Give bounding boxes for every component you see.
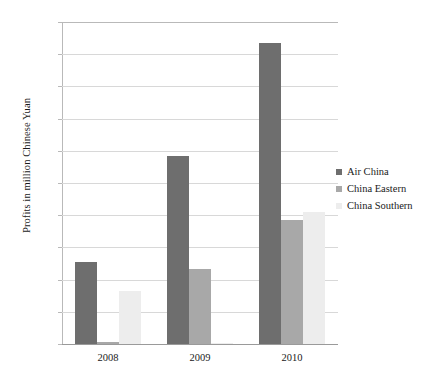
bar (281, 220, 303, 344)
bar (75, 262, 97, 344)
bar-chart: Profits in million Chinese Yuan 05001,00… (0, 0, 445, 381)
bar (97, 342, 119, 344)
gridline (62, 344, 338, 345)
legend-item[interactable]: China Eastern (336, 180, 444, 197)
bar (303, 212, 325, 344)
gridline (62, 54, 338, 55)
gridline (62, 215, 338, 216)
legend: Air ChinaChina EasternChina Southern (336, 163, 444, 214)
legend-item[interactable]: China Southern (336, 197, 444, 214)
bar (259, 43, 281, 344)
x-axis-tick-label: 2010 (252, 352, 332, 363)
y-axis-title: Profits in million Chinese Yuan (21, 66, 32, 266)
legend-item-label: Air China (347, 166, 389, 177)
bar (211, 343, 233, 344)
bar (189, 269, 211, 344)
legend-swatch-icon (336, 186, 342, 192)
x-axis-tick-label: 2009 (160, 352, 240, 363)
gridline (62, 183, 338, 184)
gridline (62, 119, 338, 120)
bar (119, 291, 141, 344)
gridline (62, 86, 338, 87)
legend-item-label: China Eastern (347, 183, 406, 194)
legend-swatch-icon (336, 169, 342, 175)
gridline (62, 22, 338, 23)
plot-area (62, 22, 338, 344)
gridline (62, 151, 338, 152)
legend-item[interactable]: Air China (336, 163, 444, 180)
bar (167, 156, 189, 344)
legend-item-label: China Southern (347, 200, 413, 211)
x-axis-tick-label: 2008 (68, 352, 148, 363)
legend-swatch-icon (336, 203, 342, 209)
